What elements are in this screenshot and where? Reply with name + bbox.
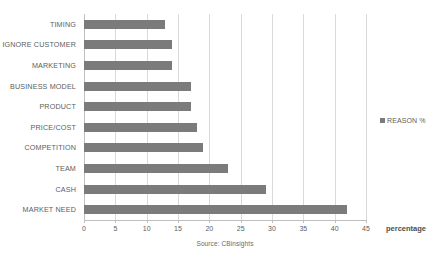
x-tick-label: 15 (174, 225, 182, 232)
category-label: MARKET NEED (0, 199, 80, 220)
bar-slot (84, 158, 366, 179)
legend-swatch-reason (380, 118, 385, 123)
gridline (366, 14, 367, 220)
x-tick-label: 0 (82, 225, 86, 232)
bar-slot (84, 117, 366, 138)
bars-layer (84, 14, 366, 220)
category-label: PRICE/COST (0, 117, 80, 138)
bar-slot (84, 199, 366, 220)
bar[interactable] (84, 82, 191, 91)
plot-area (84, 14, 366, 220)
bar[interactable] (84, 123, 197, 132)
bar-slot (84, 76, 366, 97)
legend: REASON % (380, 117, 426, 124)
category-label: CASH (0, 179, 80, 200)
bar-slot (84, 179, 366, 200)
x-tick (335, 220, 336, 223)
x-tick (115, 220, 116, 223)
legend-label-reason: REASON % (387, 117, 426, 124)
x-tick (366, 220, 367, 223)
x-tick-label: 25 (237, 225, 245, 232)
category-label: IGNORE CUSTOMER (0, 35, 80, 56)
category-axis: TIMINGIGNORE CUSTOMERMARKETINGBUSINESS M… (0, 14, 80, 220)
bar[interactable] (84, 40, 172, 49)
bar[interactable] (84, 102, 191, 111)
x-axis-line (84, 220, 366, 221)
x-tick-label: 5 (113, 225, 117, 232)
x-tick (241, 220, 242, 223)
x-tick-label: 35 (299, 225, 307, 232)
x-tick (303, 220, 304, 223)
bar[interactable] (84, 20, 165, 29)
x-tick (209, 220, 210, 223)
bar[interactable] (84, 164, 228, 173)
bar[interactable] (84, 143, 203, 152)
chart-title (0, 0, 437, 6)
category-label: COMPETITION (0, 138, 80, 159)
bar[interactable] (84, 185, 266, 194)
x-tick (178, 220, 179, 223)
bar-chart: TIMINGIGNORE CUSTOMERMARKETINGBUSINESS M… (0, 0, 437, 258)
bar-slot (84, 55, 366, 76)
bar-slot (84, 14, 366, 35)
x-tick-label: 40 (331, 225, 339, 232)
x-tick-label: 45 (362, 225, 370, 232)
category-label: MARKETING (0, 55, 80, 76)
source-caption: Source: CBinsights (84, 240, 366, 247)
bar-slot (84, 138, 366, 159)
category-label: BUSINESS MODEL (0, 76, 80, 97)
category-label: TIMING (0, 14, 80, 35)
x-axis-title: percentage (386, 224, 426, 233)
bar-slot (84, 35, 366, 56)
x-tick (272, 220, 273, 223)
bar[interactable] (84, 61, 172, 70)
bar[interactable] (84, 205, 347, 214)
x-tick-label: 30 (268, 225, 276, 232)
category-label: PRODUCT (0, 96, 80, 117)
x-tick-label: 10 (143, 225, 151, 232)
bar-slot (84, 96, 366, 117)
x-tick (147, 220, 148, 223)
x-tick (84, 220, 85, 223)
x-tick-label: 20 (205, 225, 213, 232)
category-label: TEAM (0, 158, 80, 179)
